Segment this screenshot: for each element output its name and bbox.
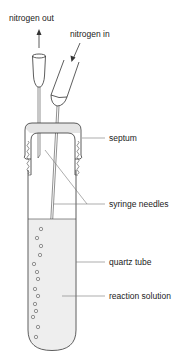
label-septum: septum: [109, 133, 137, 143]
apparatus-diagram: nitrogen out nitrogen in: [0, 0, 185, 364]
label-syringe-needles: syringe needles: [109, 199, 169, 209]
nitrogen-inlet-tube: [51, 60, 79, 106]
syringe-hub-out: [33, 54, 46, 87]
syringe-needle-out: [38, 87, 40, 158]
label-nitrogen-in: nitrogen in: [70, 29, 110, 39]
arrow-up-icon: [37, 29, 42, 48]
label-quartz-tube: quartz tube: [109, 257, 152, 267]
leader-needles-diagonal: [45, 150, 87, 204]
septum-cap: [24, 123, 82, 175]
label-nitrogen-out: nitrogen out: [9, 13, 55, 23]
arrow-down-icon: [71, 43, 81, 62]
label-reaction-solution: reaction solution: [109, 291, 171, 301]
